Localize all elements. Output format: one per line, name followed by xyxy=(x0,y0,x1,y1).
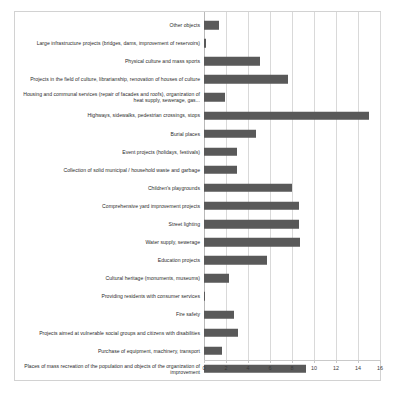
bar-chart-figure: Other objectsLarge infrastructure projec… xyxy=(0,0,395,400)
bar-row: Comprehensive yard improvement projects xyxy=(15,197,380,215)
category-label: Comprehensive yard improvement projects xyxy=(15,203,204,209)
bar-row: Collection of solid municipal / househol… xyxy=(15,161,380,179)
x-tick-mark xyxy=(314,360,315,363)
bar-cell xyxy=(204,342,380,360)
category-label: Collection of solid municipal / househol… xyxy=(15,167,204,173)
bar xyxy=(204,39,206,48)
bar-row: Highways, sidewalks, pedestrian crossing… xyxy=(15,106,380,124)
bar xyxy=(204,274,229,283)
bar-row: Burial places xyxy=(15,125,380,143)
bar-cell xyxy=(204,197,380,215)
x-tick-mark xyxy=(336,360,337,363)
x-tick-label: 0 xyxy=(203,365,206,372)
bar-cell xyxy=(204,251,380,269)
x-tick-mark xyxy=(292,360,293,363)
category-label: Purchase of equipment, machinery, transp… xyxy=(15,348,204,354)
bar xyxy=(204,256,267,265)
x-tick-label: 8 xyxy=(291,365,294,372)
bar-cell xyxy=(204,179,380,197)
bar-cell xyxy=(204,106,380,124)
bar xyxy=(204,310,234,319)
x-tick-mark xyxy=(204,360,205,363)
bar-cell xyxy=(204,88,380,106)
category-label: Providing residents with consumer servic… xyxy=(15,293,204,299)
bar-row: Education projects xyxy=(15,251,380,269)
plot-area: Other objectsLarge infrastructure projec… xyxy=(15,12,380,380)
category-label: Burial places xyxy=(15,131,204,137)
bar-cell xyxy=(204,52,380,70)
category-label: Projects in the field of culture, librar… xyxy=(15,76,204,82)
category-label: Street lighting xyxy=(15,221,204,227)
bar-row: Housing and communal services (repair of… xyxy=(15,88,380,106)
bar xyxy=(204,93,225,102)
bar-row: Fire safety xyxy=(15,306,380,324)
bar-row: Projects in the field of culture, librar… xyxy=(15,70,380,88)
bar-cell xyxy=(204,161,380,179)
x-tick-label: 14 xyxy=(355,365,361,372)
bar-cell xyxy=(204,125,380,143)
x-tick-mark xyxy=(248,360,249,363)
x-tick-label: 10 xyxy=(311,365,317,372)
bar-cell xyxy=(204,287,380,305)
bar xyxy=(204,57,260,66)
x-tick-mark xyxy=(358,360,359,363)
bar-cell xyxy=(204,70,380,88)
category-label: Cultural heritage (monuments, museums) xyxy=(15,275,204,281)
bar xyxy=(204,292,205,301)
category-label: Water supply, sewerage xyxy=(15,239,204,245)
bar xyxy=(204,147,237,156)
bar xyxy=(204,111,369,120)
x-tick-mark xyxy=(226,360,227,363)
bar-row: Other objects xyxy=(15,16,380,34)
category-label: Physical culture and mass sports xyxy=(15,58,204,64)
bar xyxy=(204,21,219,30)
bar xyxy=(204,184,292,193)
bar xyxy=(204,238,300,247)
bar xyxy=(204,346,222,355)
bar xyxy=(204,328,238,337)
x-tick-label: 6 xyxy=(269,365,272,372)
category-label: Children's playgrounds xyxy=(15,185,204,191)
bar-cell xyxy=(204,143,380,161)
x-tick-label: 16 xyxy=(377,365,383,372)
bar xyxy=(204,220,299,229)
bar-row: Projects aimed at vulnerable social grou… xyxy=(15,324,380,342)
bar-row: Water supply, sewerage xyxy=(15,233,380,251)
bar-cell xyxy=(204,215,380,233)
category-label: Large infrastructure projects (bridges, … xyxy=(15,40,204,46)
x-tick-mark xyxy=(270,360,271,363)
category-label: Education projects xyxy=(15,257,204,263)
bar-cell xyxy=(204,233,380,251)
bar-cell xyxy=(204,306,380,324)
category-label: Fire safety xyxy=(15,311,204,317)
category-label: Housing and communal services (repair of… xyxy=(15,91,204,103)
bar xyxy=(204,75,288,84)
x-tick-label: 12 xyxy=(333,365,339,372)
bar-cell xyxy=(204,34,380,52)
bar-cell xyxy=(204,324,380,342)
bar-row: Children's playgrounds xyxy=(15,179,380,197)
bar-cell xyxy=(204,269,380,287)
bar-row: Providing residents with consumer servic… xyxy=(15,287,380,305)
category-label: Places of mass recreation of the populat… xyxy=(15,363,204,375)
bar xyxy=(204,129,256,138)
bar-row: Physical culture and mass sports xyxy=(15,52,380,70)
bar-row: Event projects (holidays, festivals) xyxy=(15,143,380,161)
x-tick-mark xyxy=(380,360,381,363)
category-label: Projects aimed at vulnerable social grou… xyxy=(15,330,204,336)
x-tick-label: 2 xyxy=(225,365,228,372)
bar-rows: Other objectsLarge infrastructure projec… xyxy=(15,16,380,360)
category-label: Other objects xyxy=(15,22,204,28)
x-axis: 0246810121416 xyxy=(204,360,380,380)
bar-cell xyxy=(204,16,380,34)
bar-row: Purchase of equipment, machinery, transp… xyxy=(15,342,380,360)
bar-row: Large infrastructure projects (bridges, … xyxy=(15,34,380,52)
category-label: Highways, sidewalks, pedestrian crossing… xyxy=(15,112,204,118)
bar-row: Cultural heritage (monuments, museums) xyxy=(15,269,380,287)
bar xyxy=(204,166,237,175)
bar xyxy=(204,202,299,211)
bar-row: Street lighting xyxy=(15,215,380,233)
x-tick-label: 4 xyxy=(247,365,250,372)
category-label: Event projects (holidays, festivals) xyxy=(15,149,204,155)
